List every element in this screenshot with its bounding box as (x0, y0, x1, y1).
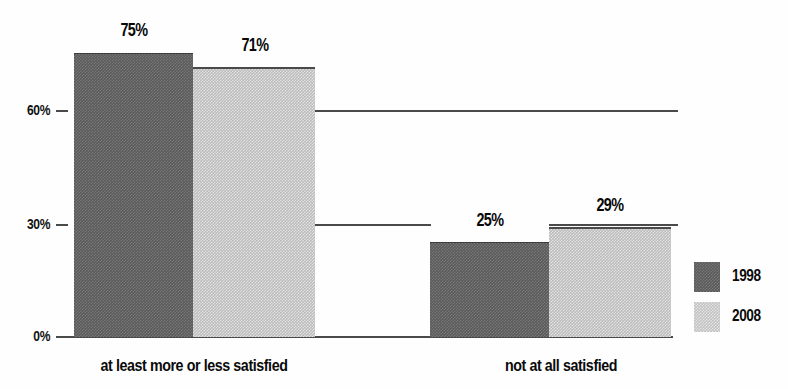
gridline-30-left (315, 224, 431, 226)
ytick-mark-0 (56, 336, 68, 338)
legend-label-1998: 1998 (732, 267, 761, 285)
ytick-label-0: 0% (7, 328, 50, 344)
legend-label-2008: 2008 (732, 307, 761, 325)
category-label-at-least-more-or-less-satisfied: at least more or less satisfied (85, 356, 303, 376)
legend-item-1998[interactable]: 1998 (694, 262, 786, 294)
category-label-not-at-all-satisfied: not at all satisfied (481, 356, 641, 376)
ytick-mark-30 (56, 224, 68, 226)
bar-chart: 60% 30% 0% 75% 71% 25% 29% at least more… (0, 0, 788, 389)
value-label-75: 75% (102, 20, 166, 41)
value-label-71: 71% (223, 35, 287, 56)
ytick-label-30: 30% (7, 216, 50, 232)
value-label-25: 25% (458, 210, 522, 231)
legend-item-2008[interactable]: 2008 (694, 302, 786, 334)
legend: 1998 2008 (694, 262, 786, 340)
bar-2008-at-least-more-or-less-satisfied[interactable] (193, 67, 315, 337)
ytick-mark-60 (56, 110, 68, 112)
ytick-label-60: 60% (7, 102, 50, 118)
bar-1998-not-at-all-satisfied[interactable] (430, 242, 550, 337)
bar-2008-not-at-all-satisfied[interactable] (549, 227, 671, 337)
value-label-29: 29% (578, 195, 642, 216)
gridline-30-right (549, 224, 678, 226)
legend-swatch-1998 (694, 262, 720, 292)
bar-1998-at-least-more-or-less-satisfied[interactable] (74, 53, 193, 337)
legend-swatch-2008 (694, 302, 720, 332)
gridline-60 (315, 110, 678, 112)
plot-area: 60% 30% 0% 75% 71% 25% 29% at least more… (0, 0, 788, 389)
